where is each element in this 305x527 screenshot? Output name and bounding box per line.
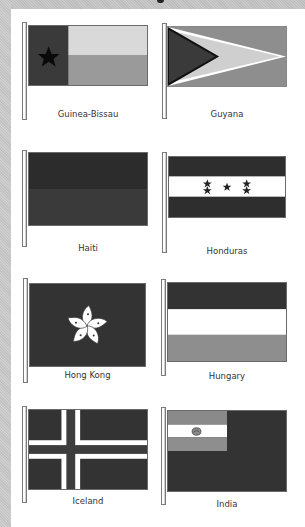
iceland-flag-icon	[28, 409, 148, 490]
hungary-flag-icon	[167, 282, 287, 362]
flagpole-icon	[23, 278, 28, 383]
hong-kong-flag-icon	[29, 283, 146, 367]
flag-label: Honduras	[168, 246, 286, 256]
flag-label: India	[167, 499, 287, 509]
flag-label: Iceland	[28, 496, 148, 506]
page-margin	[0, 0, 11, 527]
flagpole-icon	[162, 152, 167, 253]
flag-label: Guyana	[167, 109, 287, 119]
guyana-flag-icon	[167, 26, 287, 87]
flagpole-icon	[22, 150, 27, 247]
flagpole-icon	[161, 407, 166, 505]
haiti-flag-icon	[28, 152, 148, 226]
flagpole-icon	[22, 406, 27, 503]
header-strip	[0, 0, 305, 9]
honduras-flag-icon	[168, 156, 286, 218]
flagpole-icon	[22, 22, 27, 120]
flag-label: Guinea-Bissau	[28, 109, 148, 119]
flagpole-icon	[161, 279, 166, 376]
guinea-bissau-flag-icon	[28, 25, 148, 86]
flag-label: Hong Kong	[29, 370, 146, 380]
flag-label: Hungary	[167, 371, 287, 381]
flag-label: Haiti	[28, 243, 148, 253]
india-flag-icon	[167, 410, 287, 492]
